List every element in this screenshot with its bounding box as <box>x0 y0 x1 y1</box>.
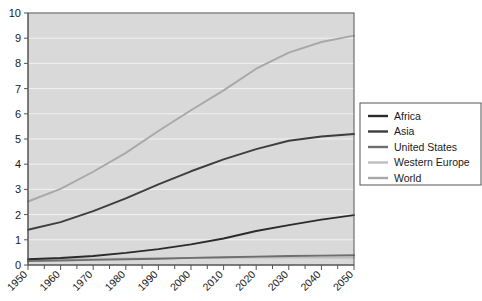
legend-label: United States <box>394 141 457 153</box>
legend-label: Asia <box>394 125 415 137</box>
legend-label: World <box>394 172 421 184</box>
y-axis-tick-label: 10 <box>9 7 21 19</box>
y-axis-tick-label: 9 <box>15 32 21 44</box>
y-axis-tick-label: 5 <box>15 133 21 145</box>
y-axis-tick-label: 4 <box>15 158 21 170</box>
y-axis-tick-label: 8 <box>15 57 21 69</box>
y-axis-tick-label: 6 <box>15 108 21 120</box>
chart-legend: AfricaAsiaUnited StatesWestern EuropeWor… <box>360 103 481 185</box>
legend-label: Western Europe <box>394 156 470 168</box>
legend-label: Africa <box>394 110 421 122</box>
y-axis-tick-label: 7 <box>15 83 21 95</box>
y-axis-tick-label: 1 <box>15 234 21 246</box>
y-axis-tick-label: 3 <box>15 183 21 195</box>
population-line-chart: 012345678910 195019601970198019902000201… <box>0 0 482 301</box>
y-axis-tick-label: 2 <box>15 209 21 221</box>
chart-svg: 012345678910 195019601970198019902000201… <box>0 0 482 301</box>
